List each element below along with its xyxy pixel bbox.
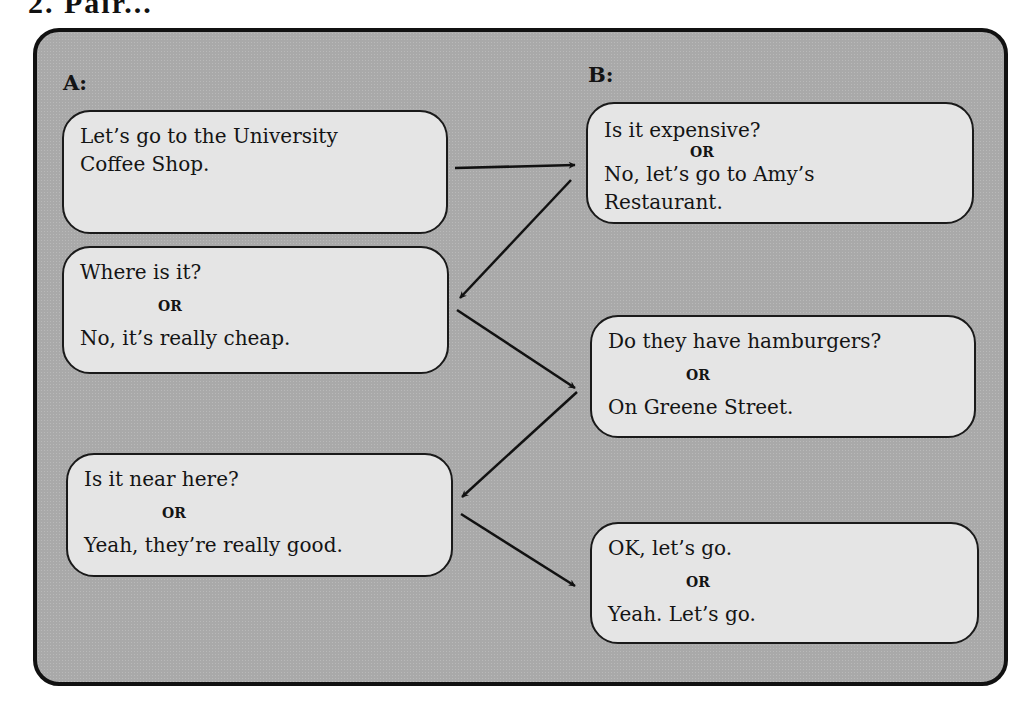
dialogue-box-b1: Is it expensive? OR No, let’s go to Amy’…	[586, 102, 974, 224]
b2-option-1: Do they have hamburgers?	[608, 327, 960, 355]
a2-option-2: No, it’s really cheap.	[80, 324, 433, 352]
speaker-b-label: B:	[588, 62, 614, 87]
a2-or-label: OR	[80, 296, 433, 316]
dialogue-box-a1: Let’s go to the University Coffee Shop.	[62, 110, 448, 234]
a2-option-1: Where is it?	[80, 258, 433, 286]
exercise-heading-cropped: 2. Pair...	[28, 0, 153, 6]
b1-option-1: Is it expensive?	[604, 116, 958, 144]
b1-option-2-line-2: Restaurant.	[604, 188, 958, 216]
b1-or-label: OR	[604, 142, 958, 162]
b3-option-2: Yeah. Let’s go.	[608, 600, 963, 628]
speaker-a-label: A:	[63, 70, 87, 95]
b2-or-label: OR	[608, 365, 960, 385]
dialogue-box-b2: Do they have hamburgers? OR On Greene St…	[590, 315, 976, 438]
b2-option-2: On Greene Street.	[608, 393, 960, 421]
b3-or-label: OR	[608, 572, 963, 592]
a3-or-label: OR	[84, 503, 437, 523]
dialogue-box-a2: Where is it? OR No, it’s really cheap.	[62, 246, 449, 374]
b3-option-1: OK, let’s go.	[608, 534, 963, 562]
a1-line-2: Coffee Shop.	[80, 150, 432, 178]
dialogue-box-b3: OK, let’s go. OR Yeah. Let’s go.	[590, 522, 979, 644]
dialogue-box-a3: Is it near here? OR Yeah, they’re really…	[66, 453, 453, 577]
a3-option-1: Is it near here?	[84, 465, 437, 493]
a1-line-1: Let’s go to the University	[80, 122, 432, 150]
b1-option-2-line-1: No, let’s go to Amy’s	[604, 160, 958, 188]
a3-option-2: Yeah, they’re really good.	[84, 531, 437, 559]
